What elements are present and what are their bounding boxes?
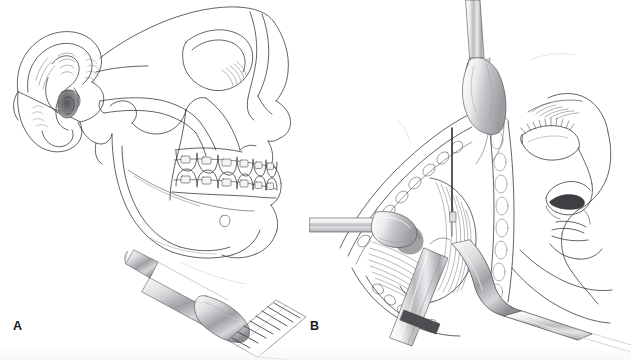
- figure-background: [0, 0, 631, 360]
- figure-container: A B: [0, 0, 631, 360]
- panel-label-b: B: [310, 320, 319, 333]
- panel-label-a: A: [13, 320, 22, 333]
- external-auditory-meatus: [58, 90, 78, 118]
- medical-illustration-canvas: [0, 0, 631, 360]
